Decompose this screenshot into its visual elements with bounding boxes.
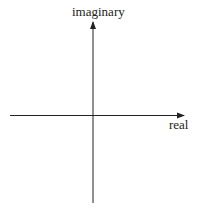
real-axis-label: real bbox=[169, 118, 188, 131]
imaginary-axis-label: imaginary bbox=[72, 5, 125, 18]
complex-plane-diagram bbox=[0, 0, 198, 208]
